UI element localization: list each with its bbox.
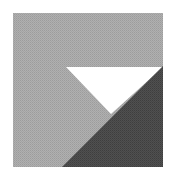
geometric-logo [0,0,178,177]
